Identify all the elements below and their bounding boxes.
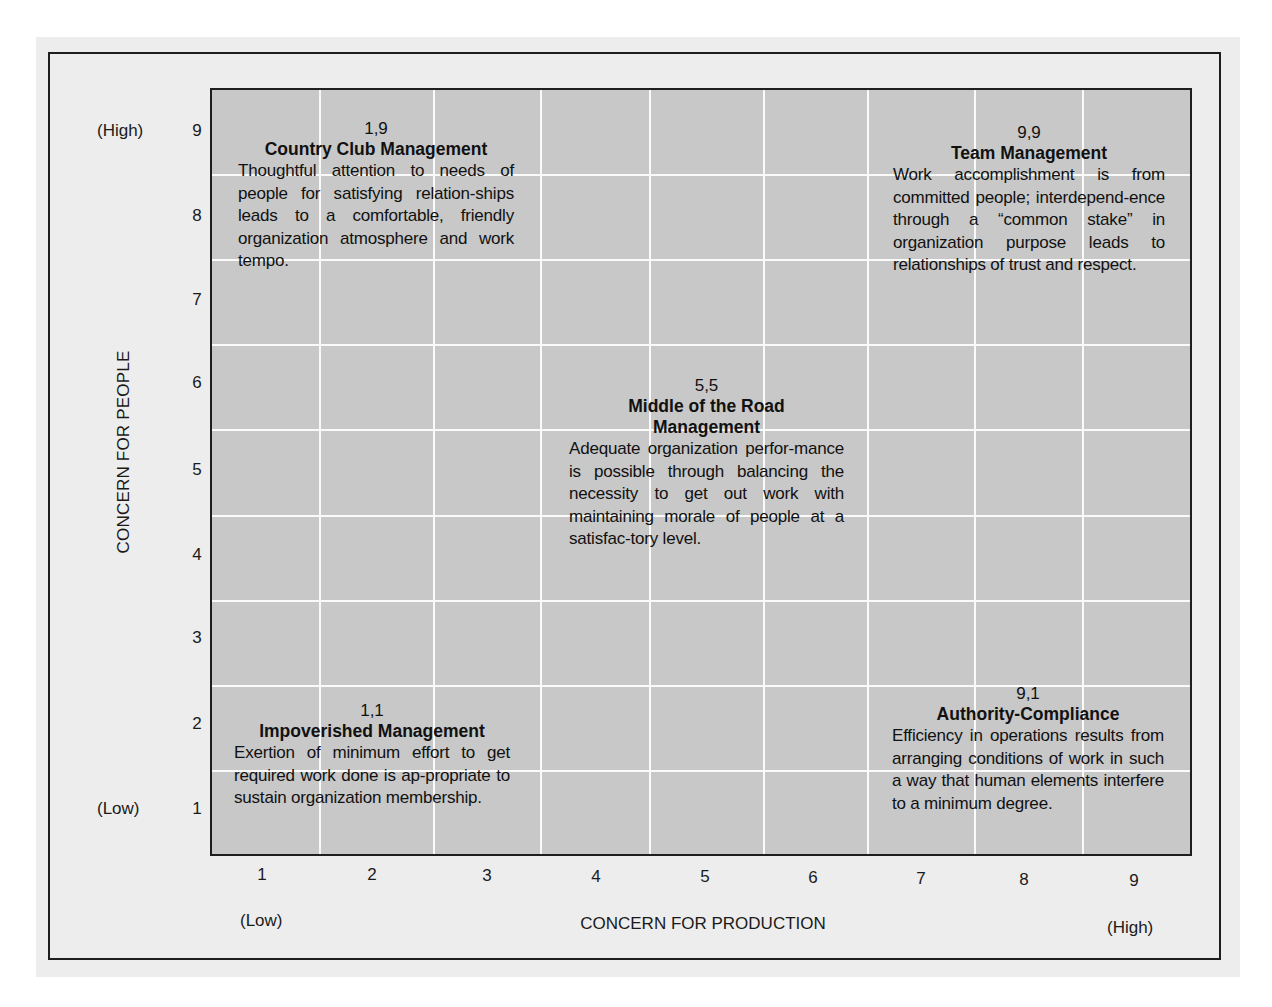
x-tick-4: 4 (581, 867, 611, 887)
style-title: Country Club Management (238, 139, 514, 160)
coordinate-label: 9,1 (892, 683, 1164, 704)
x-tick-9: 9 (1119, 871, 1149, 891)
style-title-line-1: Middle of the Road (569, 396, 844, 417)
y-axis-low-label: (Low) (97, 799, 140, 819)
style-block-middle-of-the-road: 5,5 Middle of the Road Management Adequa… (569, 375, 844, 551)
style-block-impoverished: 1,1 Impoverished Management Exertion of … (234, 700, 510, 810)
coordinate-label: 1,9 (238, 118, 514, 139)
style-description: Thoughtful attention to needs of people … (238, 160, 514, 273)
x-tick-3: 3 (472, 866, 502, 886)
style-block-team: 9,9 Team Management Work accomplishment … (893, 122, 1165, 277)
y-tick-5: 5 (187, 460, 207, 480)
x-tick-2: 2 (357, 865, 387, 885)
y-tick-6: 6 (187, 373, 207, 393)
style-title-line-2: Management (569, 417, 844, 438)
y-tick-9: 9 (187, 121, 207, 141)
x-tick-1: 1 (247, 865, 277, 885)
coordinate-label: 5,5 (569, 375, 844, 396)
x-tick-6: 6 (798, 868, 828, 888)
y-tick-4: 4 (187, 545, 207, 565)
style-block-country-club: 1,9 Country Club Management Thoughtful a… (238, 118, 514, 273)
x-axis-title: CONCERN FOR PRODUCTION (580, 914, 826, 934)
grid-vline (540, 90, 542, 854)
x-tick-7: 7 (906, 869, 936, 889)
grid-hline (212, 344, 1190, 346)
y-tick-1: 1 (187, 799, 207, 819)
style-title: Impoverished Management (234, 721, 510, 742)
y-tick-2: 2 (187, 714, 207, 734)
grid-hline (212, 600, 1190, 602)
y-axis-title: CONCERN FOR PEOPLE (114, 351, 134, 554)
style-description: Adequate organization perfor-mance is po… (569, 438, 844, 551)
style-block-authority-compliance: 9,1 Authority-Compliance Efficiency in o… (892, 683, 1164, 815)
style-title: Authority-Compliance (892, 704, 1164, 725)
style-description: Exertion of minimum effort to get requir… (234, 742, 510, 810)
style-description: Work accomplishment is from committed pe… (893, 164, 1165, 277)
x-tick-5: 5 (690, 867, 720, 887)
x-tick-8: 8 (1009, 870, 1039, 890)
style-description: Efficiency in operations results from ar… (892, 725, 1164, 815)
y-tick-7: 7 (187, 290, 207, 310)
y-axis-high-label: (High) (97, 121, 143, 141)
x-axis-low-label: (Low) (240, 911, 283, 931)
coordinate-label: 9,9 (893, 122, 1165, 143)
grid-vline (867, 90, 869, 854)
y-tick-8: 8 (187, 206, 207, 226)
y-tick-3: 3 (187, 628, 207, 648)
x-axis-high-label: (High) (1107, 918, 1153, 938)
style-title: Team Management (893, 143, 1165, 164)
coordinate-label: 1,1 (234, 700, 510, 721)
